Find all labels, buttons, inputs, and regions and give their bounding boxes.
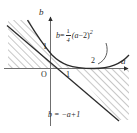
equation-parabola-fraction: 14	[66, 28, 71, 43]
origin-label: O	[41, 71, 47, 79]
axis-label-b: b	[39, 8, 44, 17]
equation-parabola-exponent: 2	[90, 29, 93, 35]
fraction-denominator: 4	[66, 37, 71, 44]
equation-parabola-equals: =	[60, 31, 65, 40]
equation-line: b = −a+1	[48, 111, 80, 119]
shaded-region-lower-right	[72, 68, 129, 120]
math-figure: b a O 1 1 2 b=14(a−2)2 b = −a+1	[0, 0, 137, 133]
fraction-numerator: 1	[66, 28, 71, 35]
leader-line	[98, 43, 107, 64]
equation-parabola: b=14(a−2)2	[56, 28, 93, 43]
y-tick-1: 1	[43, 43, 47, 51]
equation-parabola-body2: 2)	[83, 31, 90, 40]
x-tick-1: 1	[66, 71, 70, 79]
x-tick-2: 2	[91, 57, 95, 65]
axis-label-a: a	[121, 57, 126, 66]
